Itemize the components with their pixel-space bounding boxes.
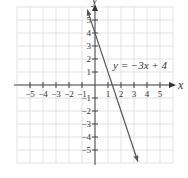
x-tick-label: 4 [145, 89, 150, 99]
x-tick-label: 3 [132, 89, 137, 99]
equation-label: y = −3x + 4 [112, 59, 168, 71]
x-axis-arrow-icon [169, 82, 176, 88]
y-tick-label: −4 [81, 132, 91, 142]
y-axis-label: y [91, 0, 98, 7]
y-tick-label: 3 [87, 41, 92, 51]
x-tick-label: −3 [51, 89, 61, 99]
axes [14, 4, 176, 165]
line-series [87, 10, 139, 162]
x-axis-label: x [177, 78, 184, 92]
x-tick-label: 1 [106, 89, 111, 99]
x-tick-label: 2 [119, 89, 124, 99]
y-tick-label: −3 [81, 119, 91, 129]
y-tick-label: −2 [81, 106, 91, 116]
x-tick-label: 5 [158, 89, 163, 99]
y-tick-label: 1 [87, 67, 92, 77]
y-tick-label: −5 [81, 145, 91, 155]
x-tick-label: −4 [38, 89, 48, 99]
y-tick-label: −1 [81, 93, 91, 103]
x-tick-label: −2 [64, 89, 74, 99]
x-tick-label: −5 [25, 89, 35, 99]
y-tick-label: 2 [87, 54, 92, 64]
y-tick-label: 4 [87, 28, 92, 38]
coordinate-plane: −5−4−3−2−112345−5−4−3−2−112345 x y y = −… [0, 0, 188, 178]
